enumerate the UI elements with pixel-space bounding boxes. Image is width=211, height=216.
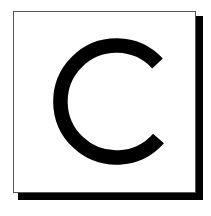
letter-c-icon <box>14 12 197 194</box>
letter-card[interactable]: C <box>13 11 196 193</box>
glyph-area: C <box>14 12 195 192</box>
canvas: C <box>0 0 211 216</box>
